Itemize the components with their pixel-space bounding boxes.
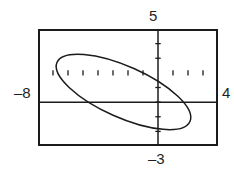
xmin-label: –8 (14, 85, 31, 100)
ymin-label: –3 (148, 151, 165, 166)
data-series-ellipse (47, 39, 201, 145)
plot-area (38, 29, 218, 146)
x-axis-ticks (53, 70, 203, 75)
ymax-label: 5 (149, 8, 157, 23)
xmax-label: 4 (222, 85, 230, 100)
list-item-label: ) (0, 6, 9, 30)
x-axis (38, 70, 218, 102)
graph-figure: ) (0, 0, 234, 171)
